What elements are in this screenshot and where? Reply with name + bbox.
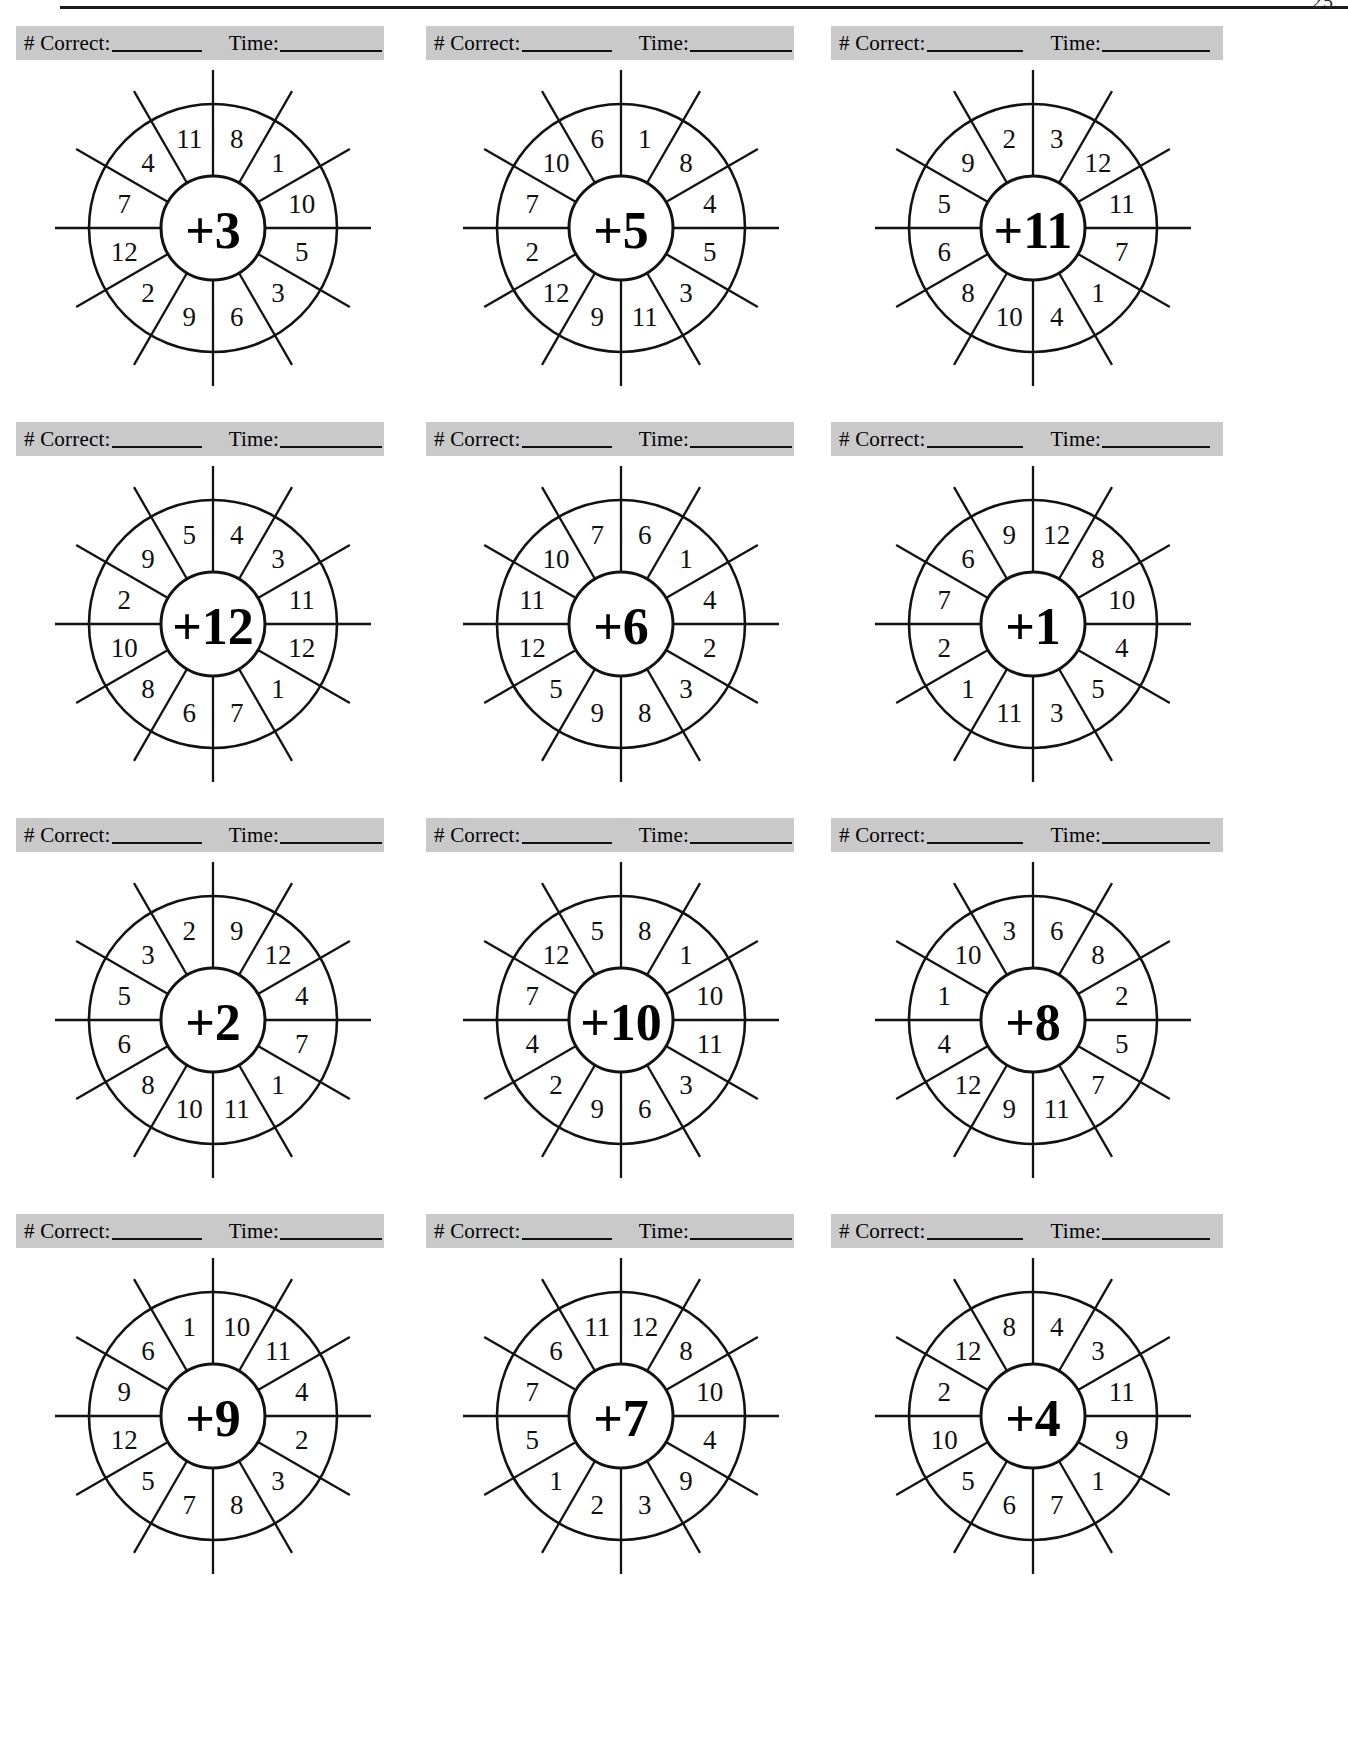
- wheel-sector-number: 12: [954, 1070, 981, 1100]
- wheel-sector-number: 1: [271, 674, 285, 704]
- correct-label: # Correct:: [24, 33, 111, 54]
- wheel-cell: # Correct:Time:+6614238951211107: [418, 412, 823, 808]
- time-input[interactable]: [280, 35, 382, 52]
- correct-input[interactable]: [927, 827, 1023, 844]
- wheel-cell: # Correct:Time:+10811011369247125: [418, 808, 823, 1204]
- time-input[interactable]: [690, 1223, 792, 1240]
- wheel-sector-number: 2: [295, 1425, 309, 1455]
- fact-wheel: +1128104531112769: [823, 456, 1243, 796]
- correct-input[interactable]: [927, 1223, 1023, 1240]
- correct-input[interactable]: [522, 1223, 613, 1240]
- time-input[interactable]: [280, 827, 382, 844]
- wheel-sector-number: 11: [584, 1312, 610, 1342]
- time-input[interactable]: [280, 431, 382, 448]
- score-bar: # Correct:Time:: [426, 1214, 794, 1248]
- wheel-sector-number: 10: [1108, 585, 1135, 615]
- wheel-cell: # Correct:Time:+12431112176810295: [8, 412, 418, 808]
- wheel-sector-number: 10: [954, 940, 981, 970]
- wheel-sector-number: 10: [111, 633, 138, 663]
- fact-wheel: +4431191765102128: [823, 1248, 1243, 1588]
- wheel-cell: # Correct:Time:+7128104932157611: [418, 1204, 823, 1600]
- wheel-sector-number: 4: [703, 189, 717, 219]
- fact-wheel: +6614238951211107: [418, 456, 823, 796]
- wheel-cell: # Correct:Time:+11312117141086592: [823, 16, 1243, 412]
- wheel-sector-number: 9: [230, 916, 244, 946]
- wheel-sector-number: 9: [679, 1466, 693, 1496]
- wheel-sector-number: 5: [117, 981, 131, 1011]
- wheel-sector-number: 8: [679, 1336, 693, 1366]
- fact-wheel: +9101142387512961: [8, 1248, 418, 1588]
- wheel-sector-number: 5: [1115, 1029, 1129, 1059]
- wheel-sector-number: 3: [271, 1466, 285, 1496]
- score-bar: # Correct:Time:: [16, 422, 384, 456]
- wheel-cell: # Correct:Time:+4431191765102128: [823, 1204, 1243, 1600]
- wheel-sector-number: 4: [1115, 633, 1129, 663]
- time-label: Time:: [1051, 1221, 1101, 1242]
- wheel-sector-number: 6: [141, 1336, 155, 1366]
- wheel-cell: # Correct:Time:+1128104531112769: [823, 412, 1243, 808]
- time-label: Time:: [229, 33, 279, 54]
- wheel-sector-number: 4: [230, 520, 244, 550]
- time-input[interactable]: [1102, 1223, 1210, 1240]
- time-input[interactable]: [280, 1223, 382, 1240]
- correct-label: # Correct:: [839, 429, 926, 450]
- correct-label: # Correct:: [24, 825, 111, 846]
- wheel-sector-number: 1: [638, 124, 652, 154]
- time-input[interactable]: [1102, 35, 1210, 52]
- wheel-sector-number: 12: [542, 940, 569, 970]
- wheel-sector-number: 2: [182, 916, 196, 946]
- correct-input[interactable]: [522, 431, 613, 448]
- wheel-center-operator: +5: [593, 202, 649, 259]
- wheel-graphic: +9101142387512961: [13, 1248, 413, 1588]
- wheel-sector-number: 12: [542, 278, 569, 308]
- wheel-sector-number: 1: [1091, 1466, 1105, 1496]
- correct-input[interactable]: [112, 431, 203, 448]
- wheel-sector-number: 4: [1050, 302, 1064, 332]
- wheel-sector-number: 12: [111, 237, 138, 267]
- wheel-sector-number: 3: [271, 544, 285, 574]
- wheel-sector-number: 7: [1115, 237, 1129, 267]
- wheel-sector-number: 6: [549, 1336, 563, 1366]
- worksheet-page: 25 # Correct:Time:+3811053692127411# Cor…: [0, 0, 1348, 1764]
- wheel-sector-number: 8: [1091, 940, 1105, 970]
- correct-label: # Correct:: [839, 1221, 926, 1242]
- correct-input[interactable]: [112, 35, 203, 52]
- time-input[interactable]: [690, 35, 792, 52]
- time-input[interactable]: [1102, 827, 1210, 844]
- time-label: Time:: [229, 825, 279, 846]
- correct-input[interactable]: [522, 827, 613, 844]
- correct-input[interactable]: [112, 1223, 203, 1240]
- time-input[interactable]: [690, 827, 792, 844]
- time-input[interactable]: [690, 431, 792, 448]
- wheel-center-operator: +12: [172, 598, 254, 655]
- page-number: 25: [1312, 0, 1334, 13]
- correct-input[interactable]: [522, 35, 613, 52]
- wheel-sector-number: 9: [1002, 1094, 1016, 1124]
- correct-input[interactable]: [927, 35, 1023, 52]
- wheel-sector-number: 7: [230, 698, 244, 728]
- wheel-graphic: +7128104932157611: [421, 1248, 821, 1588]
- wheel-center-operator: +1: [1005, 598, 1061, 655]
- score-bar: # Correct:Time:: [16, 26, 384, 60]
- time-label: Time:: [229, 429, 279, 450]
- wheel-sector-number: 8: [961, 278, 975, 308]
- wheel-graphic: +10811011369247125: [421, 852, 821, 1192]
- wheel-sector-number: 11: [1044, 1094, 1070, 1124]
- wheel-sector-number: 11: [696, 1029, 722, 1059]
- wheel-sector-number: 9: [141, 544, 155, 574]
- score-bar: # Correct:Time:: [426, 818, 794, 852]
- time-label: Time:: [229, 1221, 279, 1242]
- wheel-sector-number: 5: [937, 189, 951, 219]
- wheel-sector-number: 12: [288, 633, 315, 663]
- wheel-sector-number: 3: [638, 1490, 652, 1520]
- wheel-cell: # Correct:Time:+8682571191241103: [823, 808, 1243, 1204]
- wheel-sector-number: 8: [230, 124, 244, 154]
- time-label: Time:: [1051, 429, 1101, 450]
- wheel-graphic: +3811053692127411: [13, 60, 413, 400]
- time-input[interactable]: [1102, 431, 1210, 448]
- wheel-sector-number: 4: [937, 1029, 951, 1059]
- correct-input[interactable]: [927, 431, 1023, 448]
- wheel-sector-number: 7: [295, 1029, 309, 1059]
- score-bar: # Correct:Time:: [426, 422, 794, 456]
- correct-input[interactable]: [112, 827, 203, 844]
